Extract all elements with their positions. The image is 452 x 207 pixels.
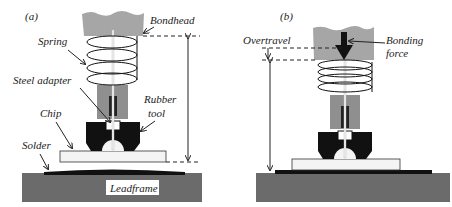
panel-b: (b) [243,10,450,202]
leadframe-b [256,173,450,202]
chip [60,151,166,162]
solder-label: Solder [22,139,51,151]
panel-b-tag: (b) [280,10,293,23]
steel-adapter-label: Steel adapter [13,74,72,86]
panel-a-tag: (a) [25,10,38,23]
bonding-force-arrow-shaft [341,32,347,46]
rubber-tool-label-2: tool [148,107,165,119]
overtravel-label: Overtravel [243,34,291,46]
bonding-force-label-1: Bonding [386,34,424,46]
solder-b [275,170,432,174]
flip-chip-bonding-diagram: (a) Leadframe [0,0,452,207]
bondhead-label: Bondhead [150,14,195,26]
bonding-force-label-2: force [386,47,408,59]
spring-label: Spring [38,35,68,47]
panel-a: (a) Leadframe [13,10,202,202]
chip-label: Chip [40,107,62,119]
chip-b [292,159,400,170]
leadframe-label: Leadframe [109,182,158,194]
rubber-tool-label-1: Rubber [143,93,177,105]
center-needle-b [344,60,346,158]
solder [44,170,185,176]
